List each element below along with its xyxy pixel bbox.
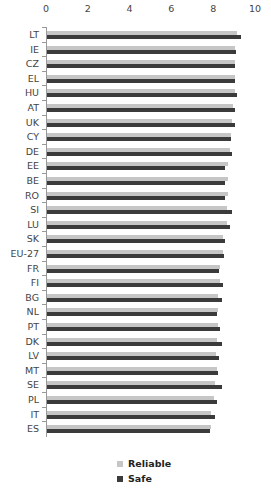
legend-swatch-reliable xyxy=(117,461,123,467)
bar-safe xyxy=(47,371,218,375)
category-label: UK xyxy=(26,117,39,128)
category-label: SK xyxy=(27,233,39,244)
bar-safe xyxy=(47,400,217,404)
bar-safe xyxy=(47,64,235,68)
y-tick-mark xyxy=(42,144,46,145)
bar-safe xyxy=(47,50,236,54)
y-tick-mark xyxy=(42,275,46,276)
bar-safe xyxy=(47,137,231,141)
y-tick-mark xyxy=(42,158,46,159)
category-label: AT xyxy=(27,102,39,113)
x-tick-label: 6 xyxy=(168,3,174,14)
category-label: DK xyxy=(25,336,39,347)
y-tick-mark xyxy=(42,377,46,378)
x-tick-label: 2 xyxy=(85,3,91,14)
bar-safe xyxy=(47,225,230,229)
category-label: NL xyxy=(27,306,39,317)
y-tick-mark xyxy=(42,42,46,43)
category-label: ES xyxy=(27,423,39,434)
y-tick-mark xyxy=(42,421,46,422)
category-label: LT xyxy=(29,29,39,40)
x-tick-label: 10 xyxy=(249,3,261,14)
bar-safe xyxy=(47,429,210,433)
y-tick-mark xyxy=(42,334,46,335)
category-label: RO xyxy=(25,190,39,201)
category-label: MT xyxy=(25,365,39,376)
y-tick-mark xyxy=(42,129,46,130)
category-label: SI xyxy=(30,204,39,215)
category-label: IE xyxy=(30,44,39,55)
bar-safe xyxy=(47,181,225,185)
y-tick-mark xyxy=(42,202,46,203)
y-tick-mark xyxy=(42,115,46,116)
bar-safe xyxy=(47,210,232,214)
bar-safe xyxy=(47,239,225,243)
x-tick-label: 0 xyxy=(43,3,49,14)
category-label: CZ xyxy=(26,58,39,69)
y-tick-mark xyxy=(42,100,46,101)
category-label: LV xyxy=(28,350,39,361)
category-label: BE xyxy=(26,175,39,186)
y-tick-mark xyxy=(42,56,46,57)
category-label: DE xyxy=(26,146,39,157)
x-tick-label: 8 xyxy=(210,3,216,14)
y-tick-mark xyxy=(42,290,46,291)
bar-safe xyxy=(47,385,222,389)
y-tick-mark xyxy=(42,246,46,247)
category-label: BG xyxy=(25,292,39,303)
bar-safe xyxy=(47,283,223,287)
bar-safe xyxy=(47,327,220,331)
bar-safe xyxy=(47,254,224,258)
category-label: HU xyxy=(25,87,39,98)
legend-item-reliable: Reliable xyxy=(117,458,171,469)
category-label: FI xyxy=(31,277,39,288)
bar-safe xyxy=(47,415,215,419)
y-tick-mark xyxy=(42,261,46,262)
bar-safe xyxy=(47,35,241,39)
bar-safe xyxy=(47,342,222,346)
bar-safe xyxy=(47,152,232,156)
y-tick-mark xyxy=(42,304,46,305)
y-tick-mark xyxy=(42,71,46,72)
y-tick-mark xyxy=(42,392,46,393)
legend-item-safe: Safe xyxy=(117,473,152,484)
category-label: CY xyxy=(27,131,39,142)
y-tick-mark xyxy=(42,319,46,320)
bar-safe xyxy=(47,269,219,273)
bar-safe xyxy=(47,79,235,83)
legend-label-safe: Safe xyxy=(128,473,152,484)
legend-label-reliable: Reliable xyxy=(128,458,171,469)
bar-safe xyxy=(47,108,235,112)
category-label: EU-27 xyxy=(11,248,39,259)
category-label: PT xyxy=(27,321,39,332)
y-tick-mark xyxy=(42,231,46,232)
x-tick-label: 4 xyxy=(127,3,133,14)
y-tick-mark xyxy=(42,188,46,189)
category-label: PL xyxy=(28,394,39,405)
bar-safe xyxy=(47,93,237,97)
y-tick-mark xyxy=(42,348,46,349)
y-tick-mark xyxy=(42,363,46,364)
y-tick-mark xyxy=(42,173,46,174)
y-tick-mark xyxy=(42,85,46,86)
horizontal-bar-chart: 0246810 LTIECZELHUATUKCYDEEEBEROSILUSKEU… xyxy=(0,0,271,497)
category-label: EL xyxy=(28,73,39,84)
category-label: FR xyxy=(27,263,39,274)
bar-safe xyxy=(47,356,219,360)
bar-safe xyxy=(47,123,235,127)
category-label: LU xyxy=(27,219,39,230)
y-tick-mark xyxy=(42,217,46,218)
bar-safe xyxy=(47,196,225,200)
category-label: EE xyxy=(27,160,39,171)
bar-safe xyxy=(47,312,217,316)
legend-swatch-safe xyxy=(117,476,123,482)
category-label: IT xyxy=(30,409,39,420)
bar-safe xyxy=(47,298,222,302)
category-label: SE xyxy=(27,379,39,390)
y-tick-mark xyxy=(42,407,46,408)
bar-safe xyxy=(47,166,225,170)
y-tick-mark xyxy=(42,27,46,28)
